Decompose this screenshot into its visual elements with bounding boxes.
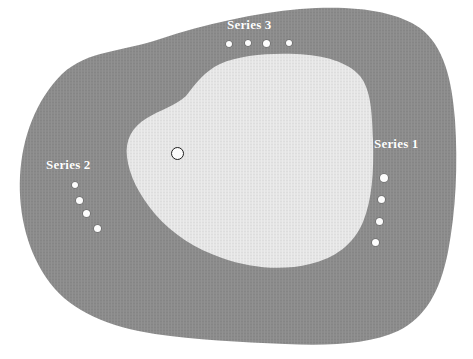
- series-label-series-3: Series 3: [227, 17, 272, 33]
- data-point-series1-1: [380, 174, 388, 182]
- data-point-series2-1: [72, 182, 78, 188]
- data-point-series3-3: [263, 40, 270, 47]
- data-point-series2-3: [83, 210, 90, 217]
- data-point-series3-1: [226, 41, 232, 47]
- data-point-series3-4: [286, 40, 292, 46]
- data-point-series3-2: [245, 40, 251, 46]
- data-point-series1-3: [376, 218, 383, 225]
- data-point-series1-4: [372, 239, 379, 246]
- data-point-series2-4: [94, 225, 101, 232]
- series-label-series-1: Series 1: [374, 136, 419, 152]
- center-point-marker: [171, 147, 184, 160]
- data-point-series1-2: [378, 196, 385, 203]
- data-point-series2-2: [76, 197, 83, 204]
- figure-canvas: Series 3 Series 1 Series 2: [0, 0, 473, 359]
- series-label-series-2: Series 2: [46, 157, 91, 173]
- region-shapes: [0, 0, 473, 359]
